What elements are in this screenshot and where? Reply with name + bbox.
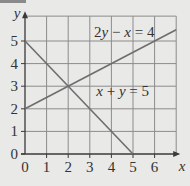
x-axis-label: x xyxy=(178,158,186,174)
linear-equations-graph: 0123450123456 yx2y − x = 4x + y = 5 xyxy=(0,0,190,186)
y-tick-label: 3 xyxy=(11,78,19,94)
y-tick-label: 1 xyxy=(11,123,19,139)
x-tick-label: 3 xyxy=(86,159,94,175)
x-tick-label: 6 xyxy=(151,159,159,175)
line-label-2y-minus-x: 2y − x = 4 xyxy=(94,24,155,40)
line-labels: yx2y − x = 4x + y = 5 xyxy=(12,5,186,174)
y-axis-label: y xyxy=(12,5,21,21)
x-tick-label: 4 xyxy=(108,159,116,175)
x-tick-label: 2 xyxy=(64,159,72,175)
x-tick-label: 1 xyxy=(43,159,51,175)
y-axis-arrow-icon xyxy=(22,11,28,18)
y-tick-label: 5 xyxy=(11,33,19,49)
x-tick-label: 0 xyxy=(21,159,29,175)
y-tick-label: 0 xyxy=(11,146,19,162)
y-tick-label: 4 xyxy=(11,56,19,72)
x-tick-label: 5 xyxy=(129,159,137,175)
line-label-x-plus-y: x + y = 5 xyxy=(95,83,149,99)
y-tick-label: 2 xyxy=(11,101,19,117)
